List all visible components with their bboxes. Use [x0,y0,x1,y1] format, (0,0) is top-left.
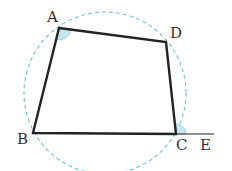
quadrilateral-ABCD [33,28,176,134]
vertex-label-A: A [47,10,58,25]
vertex-label-B: B [17,132,28,147]
vertex-label-C: C [176,138,187,153]
cyclic-quadrilateral-diagram [0,0,232,171]
circumcircle [24,12,186,171]
vertex-label-D: D [170,26,182,41]
point-label-E: E [200,138,211,153]
